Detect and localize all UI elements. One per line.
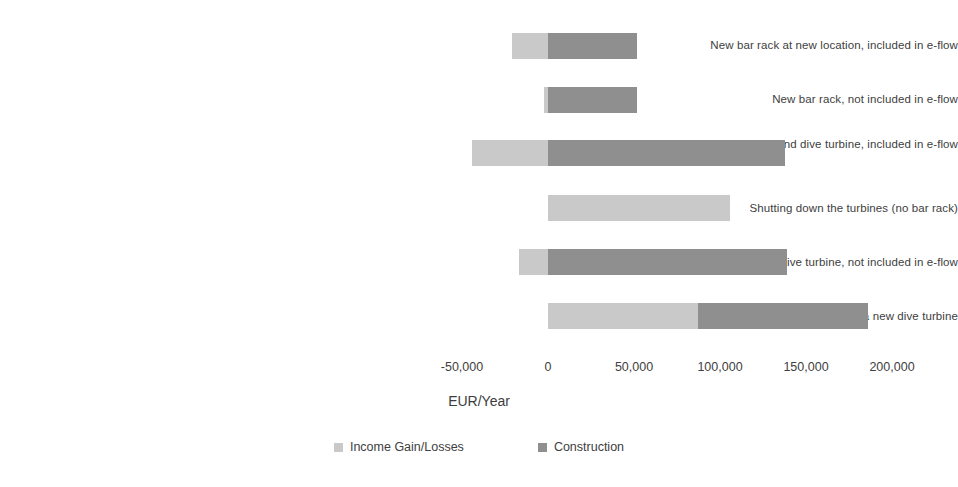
x-tick-label: 200,000: [869, 360, 914, 374]
x-tick-label: -50,000: [441, 360, 483, 374]
legend-item-label: Construction: [554, 440, 624, 454]
legend-item-construction[interactable]: Construction: [538, 440, 624, 454]
bar-segment-income[interactable]: [519, 249, 548, 275]
bar-segment-construction[interactable]: [548, 140, 785, 166]
stacked-bar-chart: New bar rack at new location, included i…: [0, 0, 958, 487]
bar-segment-income[interactable]: [548, 303, 698, 329]
bar-segment-income[interactable]: [472, 140, 548, 166]
bar-segment-construction[interactable]: [548, 87, 637, 113]
x-tick-label: 100,000: [697, 360, 742, 374]
legend-swatch-icon: [334, 443, 343, 452]
bar-segment-income[interactable]: [512, 33, 548, 59]
bar-segment-construction[interactable]: [698, 303, 868, 329]
bar-segment-construction[interactable]: [548, 249, 787, 275]
legend-item-label: Income Gain/Losses: [350, 440, 464, 454]
chart-legend: Income Gain/Losses Construction: [0, 440, 958, 454]
x-tick-label: 150,000: [783, 360, 828, 374]
legend-item-income[interactable]: Income Gain/Losses: [334, 440, 464, 454]
bar-segment-construction[interactable]: [548, 33, 637, 59]
plot-area: [0, 0, 958, 487]
x-tick-label: 50,000: [615, 360, 653, 374]
x-tick-label: 0: [545, 360, 552, 374]
x-axis-title: EUR/Year: [0, 393, 958, 409]
legend-swatch-icon: [538, 443, 547, 452]
bar-segment-income[interactable]: [548, 195, 730, 221]
